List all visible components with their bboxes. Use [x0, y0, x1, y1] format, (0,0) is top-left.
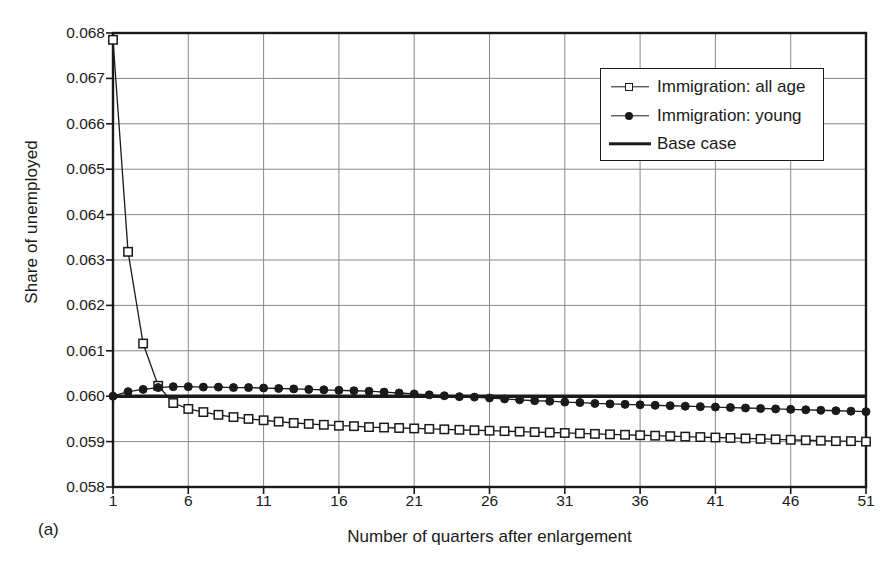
x-tick-label: 36: [618, 492, 662, 510]
y-tick-label: 0.066: [41, 115, 105, 133]
legend-label: Base case: [657, 134, 736, 154]
x-tick-label: 41: [693, 492, 737, 510]
panel-caption: (a): [38, 520, 59, 540]
legend-item-base-case: Base case: [601, 129, 823, 158]
y-tick-label: 0.059: [41, 433, 105, 451]
legend-item-immigration-all-age: Immigration: all age: [601, 72, 823, 101]
filled-circle-marker-icon: [601, 103, 657, 129]
y-axis-title: Share of unemployed: [22, 112, 42, 332]
x-axis-title: Number of quarters after enlargement: [113, 527, 866, 547]
x-tick-label: 31: [543, 492, 587, 510]
x-tick-label: 16: [317, 492, 361, 510]
y-tick-label: 0.062: [41, 296, 105, 314]
y-tick-label: 0.060: [41, 387, 105, 405]
figure-panel-a: 0.0580.0590.0600.0610.0620.0630.0640.065…: [0, 0, 896, 585]
legend-item-immigration-young: Immigration: young: [601, 101, 823, 130]
x-tick-label: 11: [242, 492, 286, 510]
y-tick-label: 0.067: [41, 69, 105, 87]
y-tick-label: 0.061: [41, 342, 105, 360]
legend-label: Immigration: all age: [657, 77, 805, 97]
x-tick-label: 21: [392, 492, 436, 510]
x-tick-label: 46: [769, 492, 813, 510]
y-tick-label: 0.064: [41, 206, 105, 224]
x-tick-label: 51: [844, 492, 888, 510]
y-tick-label: 0.063: [41, 251, 105, 269]
x-tick-label: 26: [468, 492, 512, 510]
thick-line-marker-icon: [601, 131, 657, 157]
y-tick-label: 0.068: [41, 24, 105, 42]
x-tick-label: 6: [166, 492, 210, 510]
open-square-marker-icon: [601, 74, 657, 100]
y-tick-label: 0.065: [41, 160, 105, 178]
chart-legend: Immigration: all age Immigration: young …: [600, 68, 824, 161]
legend-label: Immigration: young: [657, 106, 802, 126]
x-tick-label: 1: [91, 492, 135, 510]
